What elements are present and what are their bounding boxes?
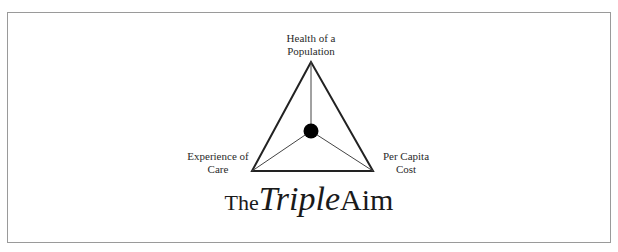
spoke-left bbox=[252, 131, 311, 171]
vertex-label-per-capita-cost: Per Capita Cost bbox=[366, 150, 446, 175]
vertex-label-experience-of-care: Experience of Care bbox=[178, 150, 258, 175]
label-line: Cost bbox=[366, 163, 446, 176]
title-prefix: The bbox=[225, 190, 259, 215]
label-line: Health of a bbox=[261, 32, 361, 45]
label-line: Per Capita bbox=[366, 150, 446, 163]
vertex-label-health-of-population: Health of a Population bbox=[261, 32, 361, 57]
label-line: Experience of bbox=[178, 150, 258, 163]
center-dot bbox=[304, 124, 319, 139]
title-emphasis: Triple bbox=[259, 180, 340, 217]
spoke-right bbox=[311, 131, 373, 171]
diagram-title: TheTripleAim bbox=[0, 180, 618, 218]
triangle-outline bbox=[252, 62, 373, 171]
title-suffix: Aim bbox=[340, 183, 393, 216]
label-line: Population bbox=[261, 45, 361, 58]
label-line: Care bbox=[178, 163, 258, 176]
